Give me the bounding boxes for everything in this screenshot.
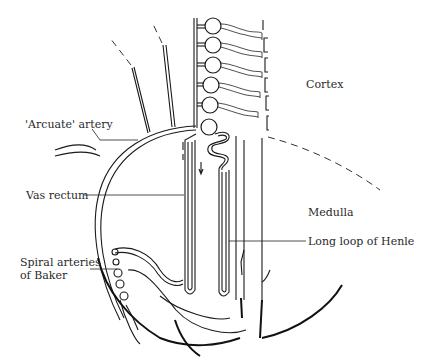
- kidney-vascular-diagram: Cortex Medulla 'Arcuate' artery Vas rect…: [0, 0, 422, 362]
- collecting-duct: [241, 20, 270, 338]
- label-medulla: Medulla: [308, 206, 354, 219]
- interlobular-artery: [194, 18, 197, 128]
- diagram-artwork: [0, 0, 422, 362]
- corticomedullary-boundary: [268, 137, 380, 190]
- glomeruli: [197, 18, 221, 135]
- loop-of-henle: [208, 132, 236, 300]
- label-spiral-arteries: Spiral arteries of Baker: [20, 256, 101, 282]
- cortical-tubules: [218, 24, 262, 118]
- outer-boundary: [98, 258, 342, 356]
- label-cortex: Cortex: [306, 78, 343, 91]
- label-arcuate-artery: 'Arcuate' artery: [25, 118, 113, 131]
- label-spiral-arteries-line2: of Baker: [20, 269, 101, 282]
- label-long-loop-of-henle: Long loop of Henle: [308, 235, 414, 248]
- label-spiral-arteries-line1: Spiral arteries: [20, 256, 101, 269]
- dashed-cortical-arteries: [110, 22, 162, 65]
- vas-rectum: [183, 134, 203, 294]
- label-vas-rectum: Vas rectum: [26, 189, 89, 202]
